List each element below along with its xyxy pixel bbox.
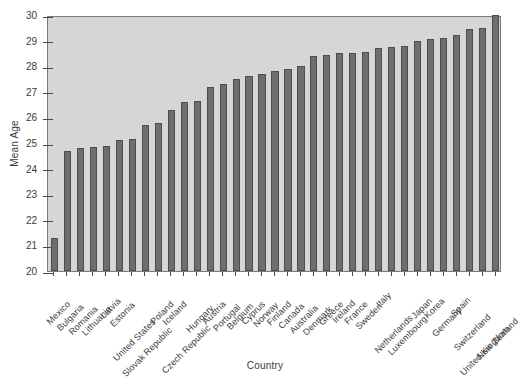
y-tick-mark-outer [43,273,48,274]
x-tick-mark [326,272,327,276]
y-tick-label: 28 [7,61,37,72]
x-tick-mark [443,272,444,276]
x-tick-mark [248,272,249,276]
x-tick-mark [495,272,496,276]
y-tick-label: 26 [7,112,37,123]
bar [233,79,240,271]
bar [388,47,395,271]
y-tick-mark [48,119,53,120]
y-tick-mark-outer [43,93,48,94]
y-tick-mark-outer [43,221,48,222]
y-tick-label: 21 [7,240,37,251]
y-tick-label: 30 [7,10,37,21]
bar [181,102,188,271]
bar [142,125,149,271]
y-tick-mark [48,221,53,222]
bar [362,52,369,271]
y-tick-mark [48,17,53,18]
x-tick-mark [469,272,470,276]
bar [194,101,201,271]
bar [155,123,162,271]
bar [349,53,356,271]
bar [310,56,317,271]
bar [207,87,214,271]
bar [116,140,123,271]
x-tick-mark [92,272,93,276]
x-tick-mark [300,272,301,276]
bar [414,41,421,271]
bar [90,147,97,271]
y-tick-mark-outer [43,196,48,197]
x-tick-mark [79,272,80,276]
bar [103,146,110,271]
y-tick-mark [48,93,53,94]
y-tick-mark [48,42,53,43]
bar [284,69,291,271]
x-axis-label: Country [0,360,530,371]
y-tick-mark-outer [43,145,48,146]
bar [336,53,343,271]
x-tick-mark [53,272,54,276]
bar [427,39,434,271]
x-tick-mark [183,272,184,276]
y-tick-mark [48,170,53,171]
x-tick-mark [196,272,197,276]
y-tick-mark-outer [43,119,48,120]
x-tick-mark [131,272,132,276]
plot-area: 2021222324252627282930 [47,16,501,272]
bar-chart-figure: Mean Age 2021222324252627282930 MexicoBu… [0,0,530,386]
x-tick-mark [144,272,145,276]
x-tick-mark [209,272,210,276]
bar [375,48,382,271]
x-tick-mark [391,272,392,276]
x-tick-mark [274,272,275,276]
x-tick-mark [105,272,106,276]
x-tick-mark [378,272,379,276]
bar [271,71,278,271]
x-tick-mark [170,272,171,276]
bar [492,15,499,271]
y-tick-mark [48,273,53,274]
y-tick-mark-outer [43,42,48,43]
x-tick-mark [456,272,457,276]
bar [297,66,304,271]
y-tick-label: 25 [7,138,37,149]
y-tick-mark [48,145,53,146]
bar [168,110,175,271]
x-tick-mark [287,272,288,276]
x-tick-mark [339,272,340,276]
x-tick-mark [365,272,366,276]
x-tick-mark [222,272,223,276]
y-tick-mark-outer [43,170,48,171]
y-tick-label: 24 [7,164,37,175]
x-tick-mark [235,272,236,276]
y-tick-mark-outer [43,68,48,69]
x-tick-mark [352,272,353,276]
x-tick-mark [66,272,67,276]
x-tick-mark [261,272,262,276]
y-tick-mark [48,196,53,197]
y-tick-label: 22 [7,215,37,226]
x-tick-mark [118,272,119,276]
y-tick-mark-outer [43,247,48,248]
bar [258,74,265,271]
x-tick-mark [313,272,314,276]
bar [401,46,408,271]
bar [466,29,473,271]
y-tick-label: 20 [7,266,37,277]
y-tick-label: 23 [7,189,37,200]
x-tick-mark [482,272,483,276]
bar [129,139,136,271]
x-tick-mark [430,272,431,276]
bar [453,35,460,271]
y-tick-label: 27 [7,87,37,98]
bar [245,76,252,271]
bar [440,38,447,271]
bar [479,28,486,271]
x-tick-mark [404,272,405,276]
bar [220,84,227,271]
x-tick-mark [417,272,418,276]
y-tick-mark-outer [43,17,48,18]
y-tick-mark [48,68,53,69]
bar [323,55,330,271]
